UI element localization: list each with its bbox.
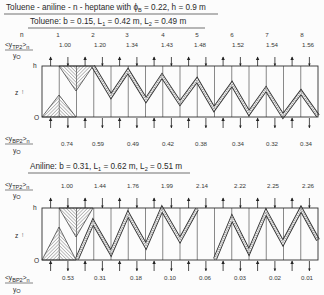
svg-text:yO: yO	[13, 286, 21, 294]
stage-number: 8	[300, 31, 304, 38]
ytp2-value: 1.99	[161, 182, 174, 189]
ytp2-value: 1.34	[126, 41, 139, 48]
ybp2-value: 0.01	[301, 274, 314, 281]
axis-zero-label: O	[34, 114, 39, 121]
axis-h-label: h	[33, 204, 37, 211]
ytp2-label: <yTP2>n yO	[5, 41, 33, 60]
arrow-up-icon	[49, 198, 52, 209]
arrow-up-icon	[152, 261, 155, 272]
arrow-up-icon	[221, 118, 224, 129]
panel-aniline: Aniline: b = 0.31, L1 = 0.62 m, L2 = 0.5…	[5, 162, 318, 294]
ybp2-label: <yBP2>n yO	[5, 135, 33, 155]
axis-z-label: z	[15, 89, 18, 96]
top-flow-arrows	[49, 57, 311, 67]
ybp2-values: 0.53 0.31 0.18 0.10 0.06 0.03 0.02 0.01	[62, 274, 314, 281]
arrow-up-icon	[187, 261, 190, 272]
ytp2-value: 2.26	[302, 182, 315, 189]
svg-text:yO: yO	[13, 52, 21, 60]
ybp2-value: 0.42	[162, 140, 175, 147]
ybp2-value: 0.59	[92, 140, 105, 147]
panel-toluene: Toluene: b = 0.15, L1 = 0.42 m, L2 = 0.4…	[5, 17, 318, 155]
arrow-down-icon	[308, 118, 311, 128]
arrow-up-icon	[49, 261, 52, 272]
axis-zero-label: O	[34, 257, 39, 264]
bottom-flow-arrows	[49, 118, 311, 129]
stage-number: 4	[161, 31, 165, 38]
ytp2-value: 1.20	[94, 41, 107, 48]
bottom-flow-arrows	[49, 261, 311, 272]
arrow-up-icon	[83, 57, 86, 67]
arrow-up-icon	[290, 198, 293, 209]
hatched-triangles	[42, 208, 93, 260]
arrow-down-icon	[101, 261, 104, 271]
svg-text:<yTP2>n: <yTP2>n	[5, 41, 29, 50]
arrow-up-icon	[256, 261, 259, 272]
arrow-down-icon	[274, 118, 277, 128]
arrow-up-icon	[118, 57, 121, 67]
axis-z-label: z	[15, 232, 18, 239]
svg-text:<yBP2>n: <yBP2>n	[5, 135, 30, 144]
arrow-up-icon	[118, 261, 121, 272]
arrow-down-icon	[101, 57, 104, 66]
arrow-down-icon	[205, 118, 208, 128]
arrow-up-icon	[49, 57, 52, 67]
arrow-up-icon	[187, 57, 190, 67]
ytp2-values: 1.00 1.44 1.76 1.99 2.14 2.22 2.25 2.26	[61, 182, 315, 189]
ybp2-value: 0.32	[266, 140, 279, 147]
ytp2-value: 1.44	[94, 182, 107, 189]
arrow-down-icon	[67, 57, 70, 66]
arrow-up-icon	[256, 118, 259, 129]
ybp2-value: 0.06	[199, 274, 212, 281]
arrow-up-icon	[290, 57, 293, 67]
arrow-down-icon	[67, 198, 70, 208]
ybp2-value: 0.38	[195, 140, 208, 147]
ytp2-value: 2.14	[196, 182, 209, 189]
arrow-down-icon	[239, 57, 242, 66]
stage-number: 2	[91, 31, 95, 38]
arrow-up-icon	[256, 57, 259, 67]
ytp2-value: 2.22	[234, 182, 247, 189]
stage-number: 3	[125, 31, 129, 38]
ytp2-value: 1.43	[161, 41, 174, 48]
stage-number-row: n 1 2 3 4 5 6 7 8	[20, 31, 304, 38]
axis-h-label: h	[33, 62, 37, 69]
ytp2-value: 1.52	[232, 41, 245, 48]
arrow-down-icon	[136, 118, 139, 128]
axis-z-arrow-icon: ↑	[21, 88, 24, 95]
arrow-up-icon	[83, 118, 86, 129]
ytp2-value: 1.56	[302, 41, 315, 48]
ybp2-value: 0.31	[94, 274, 107, 281]
arrow-up-icon	[221, 57, 224, 67]
arrow-up-icon	[152, 118, 155, 129]
stage-number: 7	[265, 31, 269, 38]
arrow-down-icon	[101, 118, 104, 128]
arrow-up-icon	[221, 261, 224, 272]
stage-row-label: n	[20, 31, 24, 38]
arrow-down-icon	[239, 118, 242, 128]
arrow-up-icon	[83, 261, 86, 272]
arrow-down-icon	[205, 198, 208, 208]
arrow-down-icon	[205, 57, 208, 66]
ybp2-value: 0.18	[130, 274, 143, 281]
ytp2-value: 1.48	[194, 41, 207, 48]
arrow-up-icon	[290, 118, 293, 129]
svg-text:yO: yO	[13, 192, 21, 200]
arrow-down-icon	[274, 57, 277, 66]
ybp2-value: 0.03	[234, 274, 247, 281]
ytp2-label: <yTP2>n yO	[5, 181, 33, 200]
arrow-up-icon	[290, 261, 293, 272]
ytp2-value: 2.25	[267, 182, 280, 189]
extraction-stage-diagram: Toluene - aniline - n - heptane with ϕB …	[0, 0, 324, 295]
arrow-up-icon	[221, 198, 224, 209]
ytp2-value: 1.00	[59, 41, 72, 48]
arrow-up-icon	[152, 57, 155, 67]
ytp2-value: 1.00	[61, 182, 74, 189]
arrow-up-icon	[118, 198, 121, 209]
arrow-down-icon	[170, 198, 173, 208]
svg-text:<yTP2>n: <yTP2>n	[5, 181, 29, 190]
arrow-down-icon	[67, 118, 70, 128]
svg-text:<yBP2>n: <yBP2>n	[5, 274, 30, 283]
arrow-down-icon	[170, 57, 173, 66]
arrow-down-icon	[308, 57, 311, 66]
ybp2-value: 0.34	[232, 140, 245, 147]
